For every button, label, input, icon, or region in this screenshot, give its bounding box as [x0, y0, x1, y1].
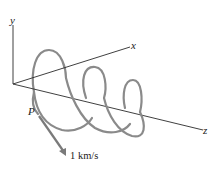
point-p-label: P: [28, 106, 35, 117]
x-axis-label: x: [131, 40, 136, 51]
diagram-canvas: [0, 0, 218, 175]
helix-coil-back: [33, 50, 142, 112]
z-axis: [13, 84, 203, 130]
y-axis-label: y: [10, 15, 15, 26]
z-axis-label: z: [203, 125, 207, 136]
helix-coil-front: [34, 78, 144, 136]
velocity-arrow: [39, 116, 64, 152]
velocity-label: 1 km/s: [70, 151, 98, 162]
helix-diagram: y x z P 1 km/s: [0, 0, 218, 175]
x-axis: [13, 47, 130, 84]
